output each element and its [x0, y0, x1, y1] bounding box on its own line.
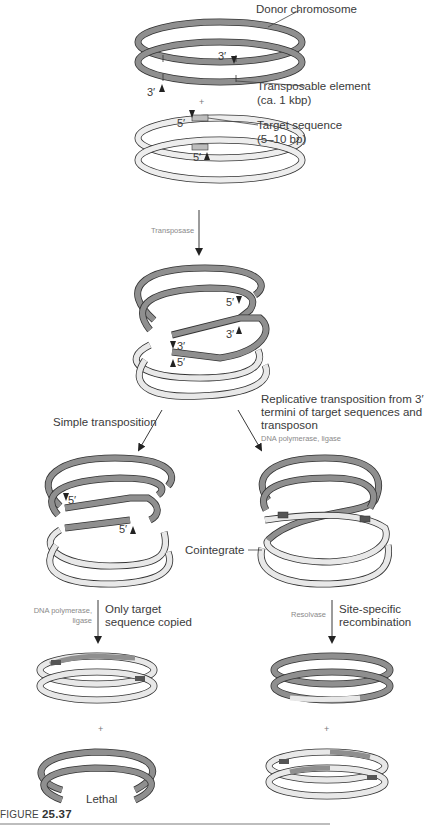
left-enzymes-line2: ligase: [20, 616, 92, 625]
resolved-ring-top: [274, 656, 390, 700]
intermediate-3prime-right: 3′: [226, 328, 234, 341]
product-ring-left: [40, 656, 154, 700]
arrowhead-down-icon: [236, 296, 242, 304]
target-5prime-top: 5′: [177, 117, 185, 130]
lethal-label: Lethal: [86, 793, 117, 806]
figure-caption: FIGURE 25.37: [0, 808, 72, 820]
plus-sign: +: [199, 96, 204, 109]
plus-sign-right: +: [324, 723, 329, 736]
figure-caption-prefix: FIGURE: [0, 809, 39, 820]
site-specific-line2: recombination: [339, 616, 411, 629]
transposable-element-label: Transposable element: [257, 80, 370, 93]
arrowhead-up-icon: [130, 526, 136, 534]
replicative-transposition-line2: termini of target sequences and: [261, 406, 422, 419]
arrow-replicative-transposition: [238, 410, 260, 448]
simple-5prime-bottom: 5′: [119, 523, 127, 536]
simple-transposition-label: Simple transposition: [53, 416, 157, 429]
donor-3prime-bottom: 3′: [147, 86, 155, 99]
cointegrate-structure: [261, 458, 388, 584]
replicative-enzymes-label: DNA polymerase, ligase: [261, 434, 341, 443]
transposase-enzyme-label: Transposase: [151, 226, 194, 235]
replicative-transposition-line3: transposon: [261, 419, 318, 432]
resolved-ring-bottom: [269, 752, 385, 796]
arrowhead-up-icon: [159, 84, 165, 92]
target-5prime-bottom: 5′: [193, 151, 201, 164]
arrowhead-up-icon: [170, 359, 176, 367]
only-target-copied-line2: sequence copied: [105, 616, 192, 629]
plus-sign-left: +: [98, 723, 103, 736]
left-enzymes-line1: DNA polymerase,: [20, 606, 92, 615]
replicative-transposition-line1: Replicative transposition from 3′: [261, 393, 424, 406]
donor-chromosome-label: Donor chromosome: [256, 3, 357, 16]
resolvase-enzyme-label: Resolvase: [260, 610, 326, 619]
arrowhead-down-icon: [170, 341, 176, 349]
cointegrate-label: Cointegrate: [185, 544, 244, 557]
simple-transposition-product: [48, 458, 172, 584]
intermediate-5prime-top: 5′: [226, 296, 234, 309]
arrowhead-up-icon: [236, 326, 242, 334]
target-sequence-size: (5–10 bp): [257, 133, 306, 146]
site-specific-line1: Site-specific: [339, 603, 401, 616]
only-target-copied-line1: Only target: [105, 603, 161, 616]
donor-3prime-top: 3′: [218, 50, 226, 63]
intermediate-5prime-left: 5′: [177, 356, 185, 369]
target-sequence-label: Target sequence: [257, 119, 342, 132]
simple-5prime-top: 5′: [68, 494, 76, 507]
figure-caption-number: 25.37: [42, 808, 72, 820]
transposable-element-size: (ca. 1 kbp): [257, 94, 311, 107]
caption-divider: [0, 823, 330, 825]
strand-exchange-intermediate: [136, 268, 266, 396]
intermediate-3prime-left: 3′: [177, 340, 185, 353]
